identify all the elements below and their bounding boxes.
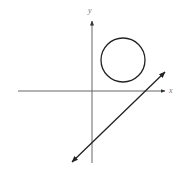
double-arrow-line [72,72,165,162]
circle [101,38,145,82]
coordinate-plane-diagram: y x [0,0,185,178]
y-axis-label: y [88,7,92,15]
diagram-svg [0,0,185,178]
x-axis-label: x [169,87,173,95]
